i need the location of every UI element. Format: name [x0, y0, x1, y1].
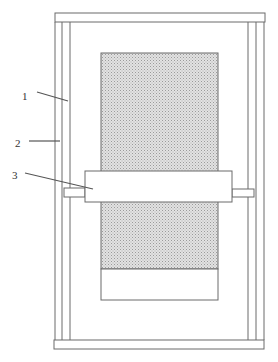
bottom-bar [54, 340, 264, 349]
label-1: 1 [22, 90, 28, 102]
label-2: 2 [15, 137, 21, 149]
diagram-canvas: 1 2 3 [0, 0, 278, 362]
label-3: 3 [12, 169, 18, 181]
roller-body [85, 171, 232, 202]
top-bar [55, 13, 265, 22]
leader-line-1 [37, 92, 68, 101]
roller [64, 171, 254, 202]
unshaded-area [101, 269, 218, 300]
roller-left-shaft [64, 188, 85, 197]
leader-line-3 [25, 173, 93, 189]
shaded-area [101, 53, 218, 269]
roller-right-shaft [232, 189, 254, 197]
